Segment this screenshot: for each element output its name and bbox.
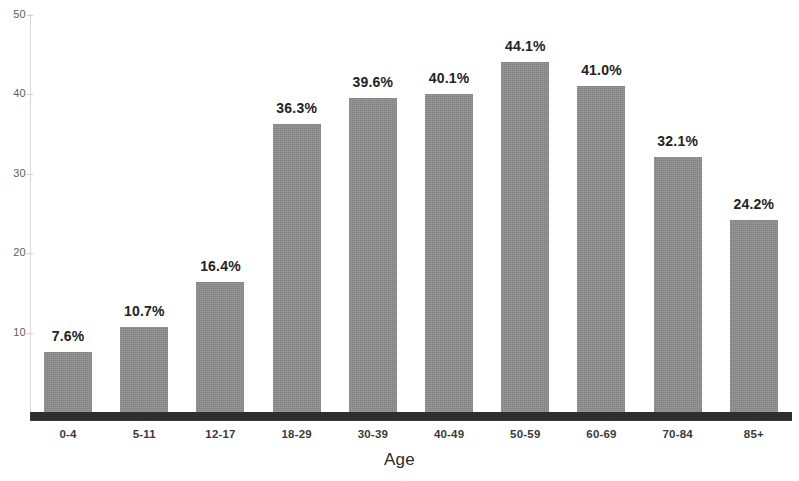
bar[interactable] <box>501 62 549 412</box>
bar-group: 36.3% <box>259 0 335 412</box>
y-axis-tick-label: 50 <box>0 8 26 20</box>
bar-group: 41.0% <box>563 0 639 412</box>
bar[interactable] <box>349 98 397 412</box>
bar[interactable] <box>196 282 244 412</box>
bar-group: 7.6% <box>30 0 106 412</box>
x-axis-tick-label: 12-17 <box>205 428 235 440</box>
bar[interactable] <box>120 327 168 412</box>
bar[interactable] <box>577 86 625 412</box>
x-axis-baseline <box>30 412 792 421</box>
bar-group: 40.1% <box>411 0 487 412</box>
x-axis-tick-label: 60-69 <box>586 428 616 440</box>
bar[interactable] <box>273 124 321 412</box>
bar-group: 32.1% <box>640 0 716 412</box>
bar-value-label: 24.2% <box>734 196 775 212</box>
x-axis-tick-label: 85+ <box>744 428 764 440</box>
bar-value-label: 40.1% <box>429 70 470 86</box>
bar-group: 10.7% <box>106 0 182 412</box>
y-axis-tick-label: 30 <box>0 167 26 179</box>
y-axis-tick-label: 10 <box>0 326 26 338</box>
x-axis-tick-label: 50-59 <box>510 428 540 440</box>
x-axis-tick-label: 5-11 <box>133 428 156 440</box>
bar-value-label: 36.3% <box>276 100 317 116</box>
bar-group: 16.4% <box>182 0 258 412</box>
x-axis-tick-label: 0-4 <box>59 428 76 440</box>
bar-group: 39.6% <box>335 0 411 412</box>
bar-group: 44.1% <box>487 0 563 412</box>
bar[interactable] <box>730 220 778 412</box>
x-axis-tick-label: 18-29 <box>281 428 311 440</box>
bar-value-label: 16.4% <box>200 258 241 274</box>
x-axis-title: Age <box>0 450 799 470</box>
bar-chart: 1020304050 7.6%10.7%16.4%36.3%39.6%40.1%… <box>0 0 799 481</box>
bar-value-label: 10.7% <box>124 303 165 319</box>
y-axis-tick-label: 40 <box>0 87 26 99</box>
bar-value-label: 7.6% <box>52 328 85 344</box>
bar-value-label: 44.1% <box>505 38 546 54</box>
bar-group: 24.2% <box>716 0 792 412</box>
bar[interactable] <box>425 94 473 412</box>
y-axis-tick-label: 20 <box>0 246 26 258</box>
x-axis-tick-label: 70-84 <box>662 428 692 440</box>
bar[interactable] <box>44 352 92 412</box>
bar[interactable] <box>654 157 702 412</box>
x-axis-tick-label: 40-49 <box>434 428 464 440</box>
bar-value-label: 41.0% <box>581 62 622 78</box>
plot-area: 7.6%10.7%16.4%36.3%39.6%40.1%44.1%41.0%3… <box>30 0 792 412</box>
bar-value-label: 39.6% <box>353 74 394 90</box>
x-axis-tick-label: 30-39 <box>358 428 388 440</box>
bar-value-label: 32.1% <box>657 133 698 149</box>
